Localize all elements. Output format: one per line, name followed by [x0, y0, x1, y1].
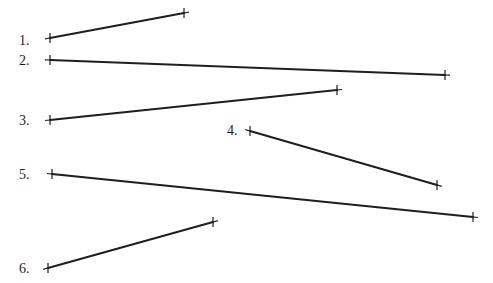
segment-5 [47, 169, 478, 222]
segment-label-5: 5. [19, 168, 30, 182]
segment-1 [45, 8, 189, 43]
segment-label-2: 2. [19, 54, 30, 68]
segment-label-4: 4. [227, 124, 238, 138]
segment-2 [45, 55, 450, 80]
segment-label-1: 1. [19, 34, 30, 48]
segment-3 [45, 85, 342, 125]
segments-canvas [0, 0, 493, 283]
segment-4 [245, 126, 442, 190]
segment-6 [43, 217, 218, 273]
line-segments-diagram: 1. 2. 3. 4. 5. 6. [0, 0, 493, 283]
segment-label-3: 3. [19, 114, 30, 128]
segment-label-6: 6. [19, 262, 30, 276]
